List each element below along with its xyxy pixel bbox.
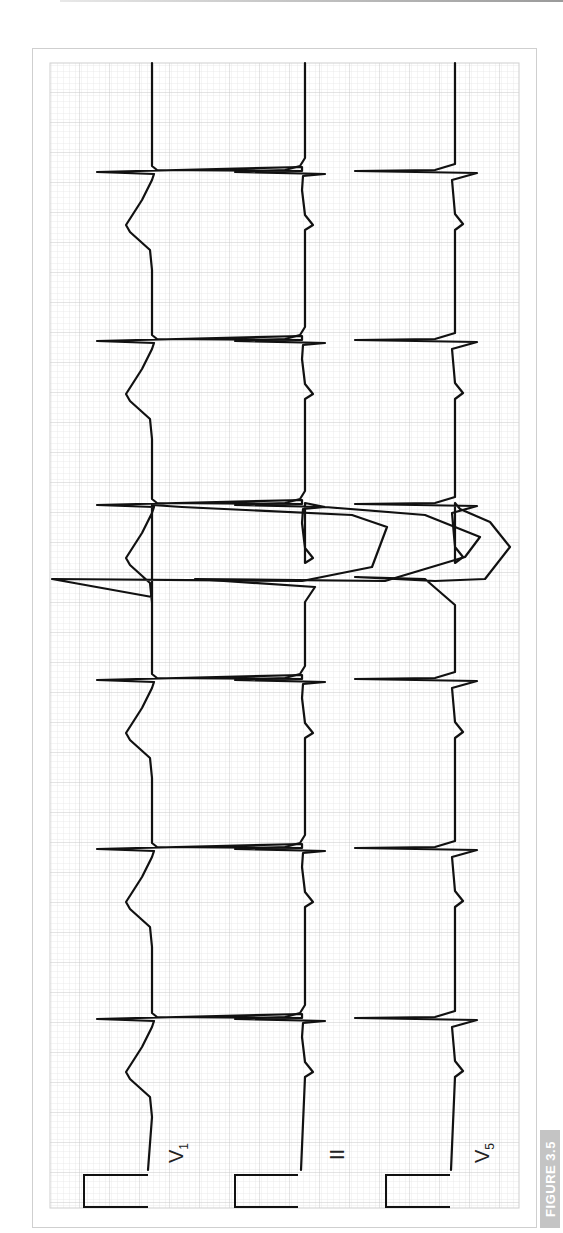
figure-number-tag: FIGURE 3.5 — [540, 1130, 560, 1228]
lead-label-ii: II — [326, 1149, 349, 1160]
ecg-strip — [0, 0, 563, 1233]
lead-label-v5: V5 — [471, 1143, 497, 1163]
ecg-grid — [50, 63, 519, 1208]
lead-label-v1: V1 — [165, 1143, 191, 1163]
